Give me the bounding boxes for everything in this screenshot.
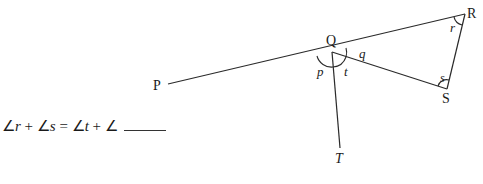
line-QS [332, 52, 447, 89]
label-S: S [442, 91, 450, 106]
eq-plus: + ∠ [21, 118, 50, 134]
eq-equals: = ∠ [56, 118, 85, 134]
label-T: T [335, 151, 344, 166]
angle-label-r: r [450, 20, 456, 35]
angle-label-p: p [316, 64, 324, 79]
angle-label-q: q [359, 46, 366, 61]
angle-arc-r [454, 17, 462, 25]
angle-arc-q [346, 48, 347, 57]
geometry-diagram: P Q R S T p t q r s [0, 0, 483, 184]
eq-plus-2: + ∠ [89, 118, 118, 134]
label-P: P [153, 78, 161, 93]
angle-label-s: s [440, 71, 445, 85]
label-Q: Q [326, 33, 336, 48]
angle-symbol: ∠ [2, 118, 15, 134]
angle-equation: ∠r + ∠s = ∠t + ∠ [2, 117, 166, 135]
answer-blank[interactable] [124, 118, 166, 131]
angle-label-t: t [344, 64, 348, 79]
label-R: R [467, 6, 477, 21]
